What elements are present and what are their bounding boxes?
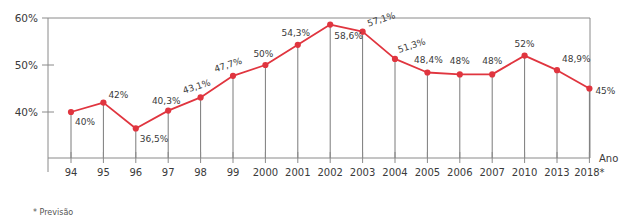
- data-point-marker: [522, 53, 528, 59]
- data-point-marker: [295, 42, 301, 48]
- data-point-marker: [198, 94, 204, 100]
- data-point-marker: [392, 56, 398, 62]
- x-tick-label: 99: [227, 167, 240, 178]
- chart-frame: [48, 18, 590, 172]
- line-chart: 40%42%36,5%40,3%43,1%47,7%50%54,3%58,6%5…: [0, 0, 632, 223]
- data-point-marker: [489, 71, 495, 77]
- data-point-marker: [586, 85, 592, 91]
- data-value-label: 40,3%: [152, 96, 181, 106]
- data-point-marker: [133, 125, 139, 131]
- data-point-marker: [230, 73, 236, 79]
- data-value-label: 48%: [482, 56, 502, 66]
- y-axis-tick-labels: 40%50%60%: [15, 12, 38, 118]
- data-point-marker: [262, 62, 268, 68]
- x-tick-label: 96: [129, 167, 142, 178]
- data-point-marker: [327, 21, 333, 27]
- x-axis-tick-labels: 9495969798992000200120022003200420052006…: [65, 167, 605, 178]
- x-tick-label: 2003: [350, 167, 375, 178]
- data-point-marker: [424, 69, 430, 75]
- x-axis-title: Ano: [599, 153, 618, 164]
- data-value-label: 58,6%: [334, 31, 363, 41]
- y-tick-label: 40%: [15, 106, 38, 118]
- data-value-label: 51,3%: [397, 36, 428, 54]
- data-value-label: 42%: [108, 90, 128, 100]
- x-tick-label: 94: [65, 167, 78, 178]
- data-point-marker: [165, 107, 171, 113]
- data-value-label: 47,7%: [213, 56, 244, 74]
- x-tick-label: 2018*: [574, 167, 604, 178]
- data-value-label: 45%: [595, 86, 615, 96]
- x-tick-label: 2005: [415, 167, 440, 178]
- y-tick-label: 50%: [15, 59, 38, 71]
- data-point-marker: [457, 71, 463, 77]
- data-value-label: 57,1%: [366, 10, 397, 28]
- footnote: * Previsão: [33, 200, 73, 219]
- x-tick-label: 95: [97, 167, 110, 178]
- x-tick-label: 2001: [285, 167, 310, 178]
- x-tick-label: 97: [162, 167, 175, 178]
- x-tick-label: 2004: [382, 167, 407, 178]
- data-value-label: 48%: [450, 56, 470, 66]
- data-value-label: 52%: [515, 39, 535, 49]
- x-tick-label: 2000: [253, 167, 278, 178]
- data-value-label: 48,9%: [562, 54, 591, 64]
- x-tick-label: 2002: [317, 167, 342, 178]
- data-value-label: 48,4%: [414, 55, 443, 65]
- y-tick-label: 60%: [15, 12, 38, 24]
- data-value-label: 40%: [75, 117, 95, 127]
- x-tick-label: 98: [194, 167, 207, 178]
- chart-container: 40%42%36,5%40,3%43,1%47,7%50%54,3%58,6%5…: [0, 0, 632, 223]
- data-value-label: 54,3%: [282, 28, 311, 38]
- x-tick-label: 2006: [447, 167, 472, 178]
- data-value-label: 50%: [253, 49, 273, 59]
- data-point-marker: [100, 100, 106, 106]
- data-point-marker: [554, 67, 560, 73]
- data-point-marker: [68, 109, 74, 115]
- data-value-labels: 40%42%36,5%40,3%43,1%47,7%50%54,3%58,6%5…: [75, 10, 616, 144]
- x-tick-label: 2007: [479, 167, 504, 178]
- data-value-label: 36,5%: [140, 134, 169, 144]
- x-tick-label: 2010: [512, 167, 537, 178]
- x-tick-label: 2013: [544, 167, 569, 178]
